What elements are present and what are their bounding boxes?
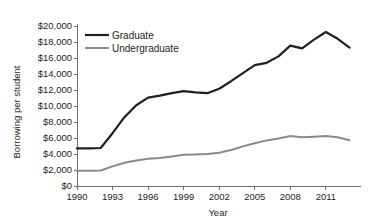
legend-label-undergraduate: Undergraduate (112, 43, 179, 54)
x-axis-tick-labels: 19901993199619992002200520082011 (66, 191, 336, 202)
y-tick-label: $12,000 (38, 84, 72, 95)
y-tick-label: $18,000 (38, 36, 72, 47)
y-axis-tick-labels: $0$2,000$4,000$6,000$8,000$10,000$12,000… (38, 20, 72, 191)
x-tick-label: 1990 (66, 191, 87, 202)
y-tick-label: $10,000 (38, 100, 72, 111)
x-tick-label: 2002 (209, 191, 230, 202)
x-tick-label: 1993 (102, 191, 123, 202)
chart-legend: GraduateUndergraduate (85, 30, 179, 54)
y-tick-label: $2,000 (43, 164, 72, 175)
y-tick-label: $20,000 (38, 20, 72, 31)
y-tick-label: $6,000 (43, 132, 72, 143)
x-tick-label: 2011 (316, 191, 336, 202)
series-line-undergraduate (77, 136, 350, 171)
chart-figure: $0$2,000$4,000$6,000$8,000$10,000$12,000… (0, 0, 376, 220)
y-axis-title: Borrowing per student (11, 65, 22, 158)
y-tick-label: $16,000 (38, 52, 72, 63)
x-axis-title: Year (208, 207, 227, 218)
x-tick-label: 2008 (280, 191, 301, 202)
y-tick-label: $8,000 (43, 116, 72, 127)
y-tick-label: $4,000 (43, 148, 72, 159)
y-tick-label: $14,000 (38, 68, 72, 79)
x-tick-label: 1996 (138, 191, 159, 202)
x-tick-label: 2005 (244, 191, 265, 202)
legend-label-graduate: Graduate (112, 30, 154, 41)
x-tick-label: 1999 (173, 191, 194, 202)
line-chart: $0$2,000$4,000$6,000$8,000$10,000$12,000… (0, 0, 376, 220)
